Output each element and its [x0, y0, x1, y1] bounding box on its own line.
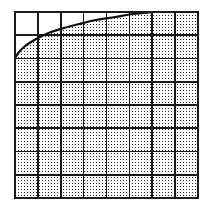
- grid-curve-figure: [0, 0, 212, 206]
- figure-container: [0, 0, 212, 206]
